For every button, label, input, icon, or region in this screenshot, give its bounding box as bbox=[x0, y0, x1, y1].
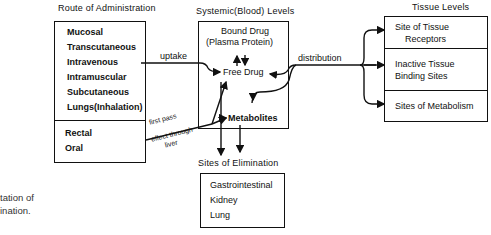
tissue-cell-binding: Inactive Tissue Binding Sites bbox=[385, 49, 487, 91]
route-item: Intramuscular bbox=[67, 70, 143, 85]
route-item: Transcutaneous bbox=[67, 40, 143, 55]
systemic-title: Systemic(Blood) Levels bbox=[196, 6, 294, 16]
tissue-cell-line: Site of Tissue bbox=[395, 21, 487, 33]
route-item: Rectal bbox=[65, 126, 92, 141]
elimination-list: Gastrointestinal Kidney Lung bbox=[210, 178, 273, 223]
metabolites-label: Metabolites bbox=[228, 113, 278, 123]
distribution-label: distribution bbox=[298, 53, 342, 63]
route-item: Lungs(Inhalation) bbox=[67, 100, 143, 115]
tissue-cell-line: Inactive Tissue bbox=[395, 58, 487, 70]
elimination-item: Kidney bbox=[210, 193, 273, 208]
route-box: Mucosal Transcutaneous Intravenous Intra… bbox=[54, 21, 146, 163]
route-divider bbox=[55, 120, 145, 121]
tissue-box: Site of Tissue Receptors Inactive Tissue… bbox=[384, 16, 488, 122]
tissue-cell-receptors: Site of Tissue Receptors bbox=[385, 17, 487, 49]
route-item: Mucosal bbox=[67, 25, 143, 40]
free-drug-label: Free Drug bbox=[223, 67, 264, 77]
route-title: Route of Administration bbox=[58, 3, 156, 13]
route-item: Intravenous bbox=[67, 55, 143, 70]
plasma-protein-label: (Plasma Protein) bbox=[206, 37, 273, 47]
route-item: Oral bbox=[65, 141, 92, 156]
caption-line: ination. bbox=[0, 204, 34, 217]
route-upper-list: Mucosal Transcutaneous Intravenous Intra… bbox=[67, 25, 143, 115]
route-lower-list: Rectal Oral bbox=[65, 126, 92, 156]
tissue-title: Tissue Levels bbox=[412, 2, 469, 12]
tissue-cell-metabolism: Sites of Metabolism bbox=[385, 91, 487, 120]
caption-line: tation of bbox=[0, 191, 34, 204]
route-item: Subcutaneous bbox=[67, 85, 143, 100]
tissue-cell-line: Receptors bbox=[395, 33, 487, 45]
uptake-label: uptake bbox=[160, 51, 187, 61]
tissue-cell-line: Sites of Metabolism bbox=[395, 100, 487, 112]
tissue-cell-line: Binding Sites bbox=[395, 70, 487, 82]
elimination-box: Gastrointestinal Kidney Lung bbox=[200, 173, 285, 228]
figure-caption: tation of ination. bbox=[0, 191, 34, 217]
bound-drug-label: Bound Drug bbox=[221, 26, 269, 36]
elimination-item: Lung bbox=[210, 208, 273, 223]
elimination-title: Sites of Elimination bbox=[198, 158, 279, 168]
elimination-item: Gastrointestinal bbox=[210, 178, 273, 193]
